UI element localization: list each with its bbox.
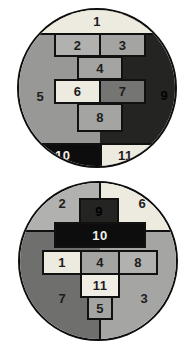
bottom-piece-11-label: 11 <box>93 279 108 292</box>
top-piece-2: 2 <box>54 33 101 57</box>
bottom-top-divider <box>99 183 101 199</box>
bottom-piece-5-label: 5 <box>96 302 104 315</box>
bottom-piece-10-label: 10 <box>92 229 107 242</box>
bottom-piece-9-label: 9 <box>95 205 103 218</box>
bottom-quadrant-6-label: 6 <box>138 197 145 210</box>
bottom-circle: 9 10 1 4 8 11 5 2 6 7 3 <box>18 181 178 341</box>
top-piece-4-label: 4 <box>96 62 104 75</box>
top-piece-11: 11 <box>100 143 175 166</box>
top-piece-5-label: 5 <box>36 90 43 103</box>
top-piece-1-label: 1 <box>93 15 101 28</box>
top-piece-7-label: 7 <box>119 85 127 98</box>
bottom-quadrant-3-label: 3 <box>140 292 147 305</box>
bottom-piece-4-label: 4 <box>96 256 104 269</box>
top-piece-3: 3 <box>99 33 146 57</box>
top-piece-11-label: 11 <box>118 149 133 162</box>
top-piece-4: 4 <box>77 56 123 80</box>
bottom-piece-1-label: 1 <box>58 256 66 269</box>
top-piece-8: 8 <box>77 103 123 132</box>
bottom-piece-8-label: 8 <box>134 256 142 269</box>
top-piece-9-label: 9 <box>160 89 167 102</box>
top-piece-6-label: 6 <box>74 85 82 98</box>
top-piece-7: 7 <box>99 79 146 104</box>
top-piece-10: 10 <box>19 143 100 166</box>
bottom-piece-8: 8 <box>118 250 158 275</box>
top-circle: 1 2 3 4 6 7 8 10 11 5 9 <box>17 8 177 168</box>
bottom-piece-11: 11 <box>80 273 120 298</box>
top-piece-6: 6 <box>54 79 101 104</box>
bottom-piece-5: 5 <box>87 296 113 320</box>
bottom-piece-1: 1 <box>42 250 82 275</box>
bottom-piece-9: 9 <box>79 198 119 224</box>
bottom-quadrant-7-label: 7 <box>58 292 65 305</box>
top-piece-10-label: 10 <box>55 149 70 162</box>
top-piece-2-label: 2 <box>74 39 82 52</box>
bottom-piece-4: 4 <box>80 250 120 275</box>
top-piece-8-label: 8 <box>96 111 104 124</box>
top-piece-3-label: 3 <box>119 39 127 52</box>
top-piece-1: 1 <box>19 10 175 35</box>
bottom-bottom-divider <box>99 318 101 339</box>
two-circle-number-puzzle-diagram: 1 2 3 4 6 7 8 10 11 5 9 <box>0 0 191 354</box>
bottom-piece-10: 10 <box>54 222 146 248</box>
bottom-quadrant-2-label: 2 <box>58 197 65 210</box>
